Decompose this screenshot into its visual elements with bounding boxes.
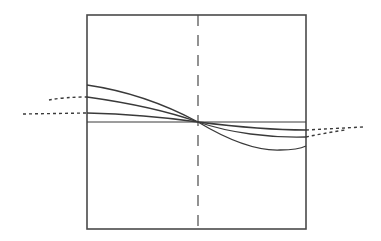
dotted-extensions [23,97,363,137]
left-ext-curve-2 [49,97,87,100]
right-ext-curve-1 [306,127,363,130]
curve-family [87,85,306,150]
diagram-svg [0,0,381,241]
right-ext-curve-2 [306,130,345,137]
left-ext-curve-1 [23,113,87,114]
diagram-canvas [0,0,381,241]
curve-2 [87,97,306,137]
curve-3 [87,85,306,150]
